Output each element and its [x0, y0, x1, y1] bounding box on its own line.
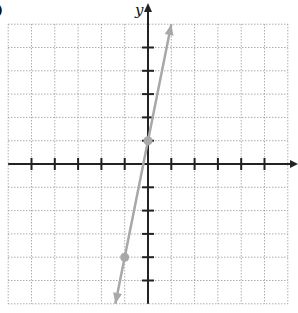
plotted-point	[120, 253, 129, 262]
axes	[8, 3, 298, 304]
plotted-point	[144, 136, 153, 145]
coordinate-plane	[0, 0, 298, 313]
x-axis-arrow-icon	[290, 160, 298, 168]
line-arrow-down-icon	[113, 292, 122, 304]
line-arrow-up-icon	[165, 24, 174, 36]
y-axis-arrow-icon	[144, 3, 152, 12]
